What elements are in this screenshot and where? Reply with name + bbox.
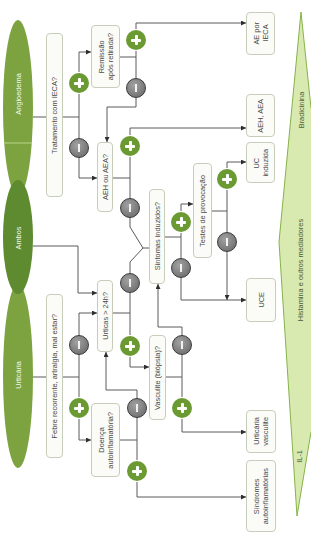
plus-icon (69, 398, 89, 418)
minus-icon (172, 335, 192, 355)
connector-line (33, 246, 97, 293)
node-text: Urticas > 24h? (101, 292, 110, 340)
category-label-ambos: Ambos (14, 226, 23, 253)
node-text: AEH ou AEA? (101, 154, 110, 200)
mediator-label-bradicinina: Bradicinina (297, 92, 306, 133)
node-urticas-24h: Urticas > 24h? (97, 280, 113, 352)
node-text: Tratamento com IECA? (50, 77, 59, 154)
mediator-label-histamina: Histamina e outros mediadores (296, 219, 305, 325)
mediator-label-text: Bradicinina (297, 92, 306, 129)
node-febre-recorrente: Febre recorrente, artralgia, mal estar? (46, 294, 63, 458)
node-text: Febre recorrente, artralgia, mal estar? (50, 314, 59, 438)
yes-branch-line (136, 23, 246, 57)
outcome-uc-induzida: UC induzida (246, 142, 275, 183)
plus-icon (120, 336, 140, 356)
node-text: AE por IECA (252, 22, 270, 45)
node-aeh-ou-aea: AEH ou AEA? (97, 142, 113, 212)
node-tratamento-ieca: Tratamento com IECA? (46, 33, 63, 197)
plus-icon (127, 461, 147, 481)
node-text: Testes de provocação (198, 175, 207, 247)
outcome-urticaria-vasculite: Urticária vasculite (246, 410, 276, 453)
yes-branch-line (137, 440, 246, 497)
outcome-uce: UCE (246, 278, 276, 322)
plus-icon (120, 136, 140, 156)
category-label-text: Urticária (14, 361, 23, 389)
minus-icon (120, 273, 140, 293)
category-label-angioedema: Angioedema (14, 73, 23, 119)
mediator-label-text: IL-1 (295, 450, 304, 463)
mediator-label-text: Histamina e outros mediadores (296, 219, 305, 321)
node-text: Doença autoinflamatória? (97, 412, 115, 469)
outcome-ae-por-ieca: AE por IECA (246, 12, 275, 55)
node-text: AEH, AEA (256, 99, 265, 133)
plus-icon (126, 30, 146, 50)
minus-icon (126, 78, 146, 98)
plus-icon (217, 169, 237, 189)
node-vasculite: Vasculite (biópsia)? (149, 335, 166, 420)
node-text: Sintomas induzidos? (153, 202, 162, 270)
minus-icon (69, 335, 89, 355)
category-label-text: Angioedema (14, 73, 23, 115)
node-text: Síndromes autoinflamatórias (252, 468, 270, 524)
minus-icon (69, 138, 89, 158)
node-text: UCE (257, 292, 266, 308)
minus-icon (127, 398, 147, 418)
node-text: Vasculite (biópsia)? (153, 346, 162, 410)
minus-icon (217, 232, 237, 252)
outcome-aeh-aea: AEH, AEA (246, 94, 275, 137)
outcome-sindromes-autoinflamatorias: Síndromes autoinflamatórias (246, 460, 276, 532)
plus-icon (172, 398, 192, 418)
node-testes-provocacao: Testes de provocação (193, 163, 212, 258)
node-text: Urticária vasculite (252, 417, 270, 446)
minus-icon (171, 258, 191, 278)
node-text: UC induzida (252, 149, 270, 177)
flowchart-diagram: Angioedema Ambos Urticária Bradicinina H… (0, 0, 311, 534)
node-remissao: Remissão após retirada? (91, 25, 120, 88)
node-doenca-autoinflamatoria: Doença autoinflamatória? (91, 403, 120, 477)
node-sintomas-induzidos: Sintomas induzidos? (149, 189, 165, 284)
plus-icon (69, 73, 89, 93)
mediator-label-il1: IL-1 (295, 449, 304, 467)
minus-icon (120, 198, 140, 218)
category-label-urticaria: Urticária (14, 361, 23, 393)
category-label-text: Ambos (14, 226, 23, 249)
node-text: Remissão após retirada? (97, 33, 115, 80)
plus-icon (171, 212, 191, 232)
